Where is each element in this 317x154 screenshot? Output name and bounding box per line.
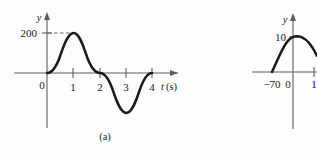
panel-a-tick-label-2: 2 <box>97 81 103 93</box>
panel-a-y-axis-arrow-icon <box>44 12 50 20</box>
panel-a-y-peak-label: 200 <box>21 27 38 39</box>
panel-a-caption: (a) <box>99 131 111 143</box>
panel-b-y-peak-label: 10 <box>275 31 287 43</box>
figure-root: y 200 0 1 2 3 4 t (s) (a) <box>0 0 317 154</box>
panel-b-y-axis-label: y <box>282 14 288 25</box>
panel-a-plot: y 200 0 1 2 3 4 t (s) (a) <box>0 0 317 154</box>
panel-a-tick-label-1: 1 <box>70 81 76 93</box>
panel-b-negative-tick-label: −70 <box>263 78 281 90</box>
panel-a-y-axis-label: y <box>36 12 42 23</box>
panel-b-tick-label-1: 1 <box>311 78 317 90</box>
panel-b-y-axis-arrow-icon <box>290 13 296 21</box>
panel-a-x-axis-label-variable: t <box>161 81 165 92</box>
panel-a-tick-label-4: 4 <box>149 81 155 93</box>
panel-b-origin-label: 0 <box>285 78 291 90</box>
panel-b-plot: y 10 −70 0 1 <box>252 13 317 129</box>
panel-a-x-axis-arrow-icon <box>170 70 178 76</box>
panel-a-origin-label: 0 <box>39 79 45 91</box>
panel-a-axes <box>14 12 178 128</box>
panel-a-tick-label-3: 3 <box>123 81 129 93</box>
panel-a-x-axis-label-unit: (s) <box>166 81 178 93</box>
